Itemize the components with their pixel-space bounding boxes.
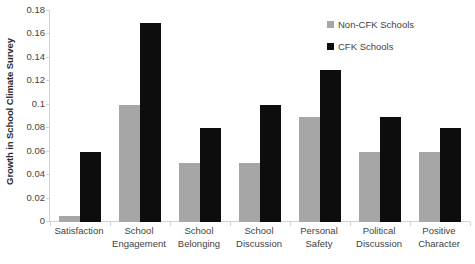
y-axis-tick-label: 0.12 bbox=[17, 75, 45, 85]
x-axis-category-label: School Belonging bbox=[169, 225, 229, 250]
x-axis-category-label: Satisfaction bbox=[49, 225, 109, 238]
bar-chart: Growth in School Climate Survey 0.180.16… bbox=[0, 0, 475, 264]
legend-label: Non-CFK Schools bbox=[338, 19, 414, 30]
y-axis-tick-label: 0.16 bbox=[17, 28, 45, 38]
y-axis-tick-label: 0.18 bbox=[17, 5, 45, 15]
bar bbox=[59, 216, 80, 222]
y-axis-title-text: Growth in School Climate Survey bbox=[4, 38, 15, 185]
x-axis-category-label: Personal Safety bbox=[289, 225, 349, 250]
bar bbox=[320, 70, 341, 222]
x-axis-category-label: School Engagement bbox=[109, 225, 169, 250]
bar bbox=[179, 163, 200, 222]
bar bbox=[239, 163, 260, 222]
y-axis-tick-label: 0.04 bbox=[17, 169, 45, 179]
bar bbox=[380, 117, 401, 223]
y-axis-tick-label: 0.1 bbox=[17, 99, 45, 109]
bar bbox=[419, 152, 440, 222]
x-axis-category-labels: SatisfactionSchool EngagementSchool Belo… bbox=[49, 225, 469, 264]
y-axis-tick-labels: 0.180.160.140.120.10.080.060.040.020 bbox=[18, 10, 48, 222]
y-axis-tick-label: 0.06 bbox=[17, 146, 45, 156]
legend-entry: Non-CFK Schools bbox=[327, 16, 467, 33]
bar bbox=[119, 105, 140, 222]
x-axis-category-label: Political Discussion bbox=[349, 225, 409, 250]
bar bbox=[299, 117, 320, 223]
bar bbox=[200, 128, 221, 222]
bar-group bbox=[170, 11, 230, 222]
y-axis-title: Growth in School Climate Survey bbox=[0, 0, 18, 222]
bar-group bbox=[110, 11, 170, 222]
chart-legend: Non-CFK SchoolsCFK Schools bbox=[327, 16, 467, 60]
y-axis-tick-label: 0.14 bbox=[17, 52, 45, 62]
y-axis-tick-label: 0.02 bbox=[17, 193, 45, 203]
bar bbox=[440, 128, 461, 222]
bar bbox=[260, 105, 281, 222]
y-axis-tick-label: 0.08 bbox=[17, 122, 45, 132]
bar bbox=[359, 152, 380, 222]
legend-swatch-icon bbox=[327, 43, 334, 50]
bar-group bbox=[50, 11, 110, 222]
legend-swatch-icon bbox=[327, 21, 334, 28]
bar bbox=[140, 23, 161, 222]
x-axis-tick-mark bbox=[470, 222, 471, 226]
x-axis-category-label: Positive Character bbox=[409, 225, 469, 250]
legend-entry: CFK Schools bbox=[327, 38, 467, 55]
bar bbox=[80, 152, 101, 222]
x-axis-category-label: School Discussion bbox=[229, 225, 289, 250]
y-axis-tick-label: 0 bbox=[17, 216, 45, 226]
legend-label: CFK Schools bbox=[338, 41, 393, 52]
bar-group bbox=[230, 11, 290, 222]
